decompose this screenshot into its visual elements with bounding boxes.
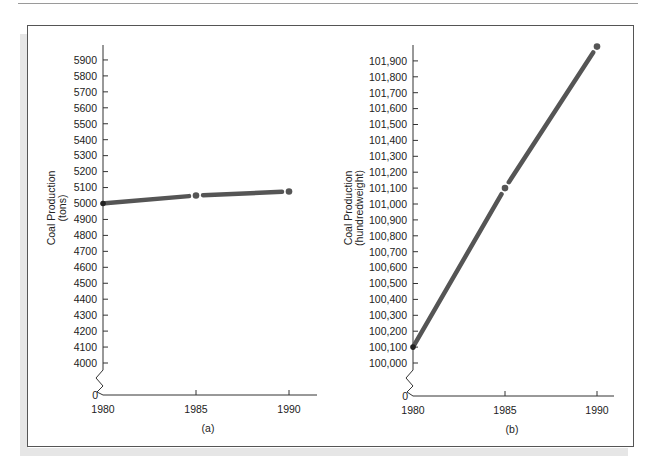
y-tick-label: 101,200 [369, 166, 407, 178]
panel-caption-b: (b) [506, 423, 519, 435]
series-line-segment [105, 196, 189, 203]
y-tick-label: 101,400 [369, 134, 407, 146]
y-tick-label: 100,800 [369, 230, 407, 242]
y-tick-label: 5800 [74, 70, 98, 82]
y-tick-label: 5500 [74, 118, 98, 130]
y-axis-title-b-line2: (hundredweight) [353, 170, 365, 246]
y-tick-label: 101,300 [369, 150, 407, 162]
y-tick-label: 4500 [74, 277, 98, 289]
x-tick-label-a-1990: 1990 [277, 403, 301, 415]
data-point [502, 185, 509, 192]
data-point [594, 43, 601, 50]
y-tick-label: 5000 [74, 197, 98, 209]
y-tick-label: 101,900 [369, 55, 407, 67]
y-tick-label: 5100 [74, 181, 98, 193]
y-tick-label: 4800 [74, 229, 98, 241]
y-tick-label: 100,900 [369, 214, 407, 226]
y-tick-label: 5200 [74, 165, 98, 177]
y-tick-label: 5900 [74, 54, 98, 66]
y-tick-label: 4100 [74, 341, 98, 353]
y-tick-label: 100,200 [369, 325, 407, 337]
x-tick-label-b-1985: 1985 [493, 404, 517, 416]
y-tick-label: 101,000 [369, 198, 407, 210]
y-tick-label: 101,600 [369, 102, 407, 114]
y-tick-label: 4200 [74, 325, 98, 337]
x-tick-label-a-1985: 1985 [184, 403, 208, 415]
y-tick-label: 5600 [74, 102, 98, 114]
y-axis-title-a: Coal Production (tons) [45, 170, 68, 245]
y-tick-label: 100,500 [369, 277, 407, 289]
y-tick-label: 100,100 [369, 341, 407, 353]
x-tick-label-a-1980: 1980 [91, 403, 115, 415]
y-tick-label: 100,000 [369, 357, 407, 369]
y-tick-label: 5400 [74, 134, 98, 146]
y-axis-ticks-b: 100,000100,100100,200100,300100,400100,5… [369, 55, 418, 369]
y-tick-label: 5300 [74, 149, 98, 161]
y-tick-label: 5700 [74, 86, 98, 98]
y-tick-label: 4300 [74, 309, 98, 321]
y-tick-label: 100,700 [369, 246, 407, 258]
y-tick-label: 101,700 [369, 87, 407, 99]
chart-panel-b: 100,000100,100100,200100,300100,400100,5… [342, 43, 614, 435]
x-tick-label-b-1990: 1990 [585, 404, 609, 416]
y-zero-label-b: 0 [402, 390, 408, 402]
figure-canvas: 4000410042004300440045004600470048004900… [0, 0, 657, 474]
y-tick-label: 4600 [74, 261, 98, 273]
y-tick-label: 4900 [74, 213, 98, 225]
data-point [100, 201, 106, 207]
x-tick-label-b-1980: 1980 [401, 404, 425, 416]
y-zero-label-a: 0 [92, 389, 98, 401]
series-line-segment [509, 52, 593, 182]
y-tick-label: 4400 [74, 293, 98, 305]
y-axis-title-b: Coal Production (hundredweight) [342, 170, 365, 246]
chart-panel-a: 4000410042004300440045004600470048004900… [45, 45, 317, 434]
data-point [410, 344, 416, 350]
series-line-segment [203, 192, 282, 195]
series-line-segment [414, 194, 501, 345]
y-tick-label: 4000 [74, 357, 98, 369]
data-series-a [100, 188, 292, 206]
y-tick-label: 100,400 [369, 293, 407, 305]
y-axis-title-a-line2: (tons) [56, 195, 68, 222]
data-point [286, 188, 293, 195]
y-tick-label: 4700 [74, 245, 98, 257]
y-tick-label: 100,300 [369, 309, 407, 321]
panel-caption-a: (a) [202, 422, 215, 434]
data-point [193, 192, 200, 199]
y-tick-label: 101,800 [369, 71, 407, 83]
y-tick-label: 101,500 [369, 118, 407, 130]
y-tick-label: 101,100 [369, 182, 407, 194]
y-tick-label: 100,600 [369, 261, 407, 273]
data-series-b [410, 43, 600, 350]
